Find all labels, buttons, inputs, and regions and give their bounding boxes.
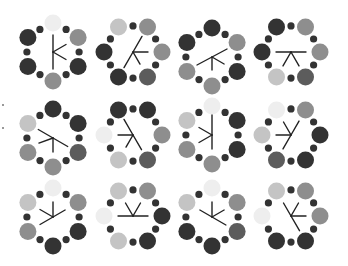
glyph-stroke xyxy=(53,210,65,217)
small-dot xyxy=(265,118,272,125)
big-dot xyxy=(204,78,221,95)
big-dot xyxy=(297,69,314,86)
small-dot xyxy=(222,236,229,243)
junction-glyph xyxy=(284,203,307,231)
big-dot xyxy=(139,101,156,118)
big-dot xyxy=(254,208,271,225)
big-dot xyxy=(268,18,285,35)
small-dot xyxy=(63,112,70,119)
ring-cell-r1-c0 xyxy=(19,101,86,176)
ring-cell-r0-c0 xyxy=(19,15,86,90)
small-dot xyxy=(23,134,30,141)
small-dot xyxy=(23,213,30,220)
small-dot xyxy=(222,191,229,198)
small-dot xyxy=(152,118,159,125)
junction-glyph xyxy=(276,121,299,149)
small-dot xyxy=(63,157,70,164)
ring-cell-r2-c1 xyxy=(96,182,171,249)
glyph-stroke xyxy=(53,52,66,60)
small-dot xyxy=(195,154,202,161)
small-dot xyxy=(36,112,43,119)
glyph-stroke xyxy=(53,138,68,147)
small-dot xyxy=(63,191,70,198)
small-dot xyxy=(195,109,202,116)
big-dot xyxy=(96,127,113,144)
small-dot xyxy=(222,109,229,116)
big-dot xyxy=(312,127,329,144)
small-dot xyxy=(107,145,114,152)
big-dot xyxy=(70,29,87,46)
edge-mark xyxy=(2,127,4,129)
glyph-stroke xyxy=(133,203,141,216)
glyph-stroke xyxy=(212,217,226,225)
big-dot xyxy=(139,69,156,86)
big-dot xyxy=(45,101,62,118)
small-dot xyxy=(235,131,242,138)
small-dot xyxy=(36,71,43,78)
big-dot xyxy=(154,44,171,61)
glyph-stroke xyxy=(212,57,224,64)
small-dot xyxy=(310,226,317,233)
big-dot xyxy=(110,101,127,118)
big-dot xyxy=(70,58,87,75)
big-dot xyxy=(297,152,314,169)
small-dot xyxy=(107,226,114,233)
small-dot xyxy=(63,236,70,243)
small-dot xyxy=(235,53,242,60)
big-dot xyxy=(110,152,127,169)
junction-glyph xyxy=(197,49,227,70)
small-dot xyxy=(182,213,189,220)
small-dot xyxy=(265,199,272,206)
ring-cell-r2-c0 xyxy=(19,180,86,255)
big-dot xyxy=(139,18,156,35)
ring-cell-r2-c2 xyxy=(178,180,245,255)
big-dot xyxy=(312,208,329,225)
big-dot xyxy=(110,18,127,35)
glyph-stroke xyxy=(284,203,292,216)
big-dot xyxy=(139,233,156,250)
big-dot xyxy=(70,194,87,211)
small-dot xyxy=(63,26,70,33)
big-dot xyxy=(178,112,195,129)
small-dot xyxy=(36,157,43,164)
glyph-stroke xyxy=(284,122,292,135)
small-dot xyxy=(152,226,159,233)
glyph-stroke xyxy=(283,135,291,149)
ring-cell-r0-c2 xyxy=(178,20,245,95)
big-dot xyxy=(154,127,171,144)
small-dot xyxy=(195,31,202,38)
small-dot xyxy=(287,105,294,112)
small-dot xyxy=(129,186,136,193)
junction-glyph xyxy=(38,130,67,153)
small-dot xyxy=(23,48,30,55)
ring-cell-r2-c3 xyxy=(254,182,329,249)
big-dot xyxy=(178,34,195,51)
junction-glyph xyxy=(124,36,148,67)
glyph-stroke xyxy=(126,135,133,147)
glyph-stroke xyxy=(200,210,212,217)
big-dot xyxy=(268,69,285,86)
big-dot xyxy=(268,152,285,169)
ring-cell-r1-c1 xyxy=(96,101,171,168)
edge-mark xyxy=(2,104,4,106)
ring-cell-r0-c3 xyxy=(254,18,329,85)
small-dot xyxy=(195,191,202,198)
stimulus-canvas xyxy=(0,0,348,266)
glyph-stroke xyxy=(124,119,133,135)
ring-cell-r1-c3 xyxy=(254,101,329,168)
big-dot xyxy=(178,141,195,158)
glyph-stroke xyxy=(126,203,134,216)
big-dot xyxy=(312,44,329,61)
small-dot xyxy=(287,186,294,193)
glyph-stroke xyxy=(38,130,53,139)
big-dot xyxy=(297,18,314,35)
big-dot xyxy=(268,233,285,250)
big-dot xyxy=(229,194,246,211)
small-dot xyxy=(287,75,294,82)
big-dot xyxy=(19,223,36,240)
small-dot xyxy=(107,199,114,206)
big-dot xyxy=(229,63,246,80)
small-dot xyxy=(310,118,317,125)
glyph-stroke xyxy=(40,210,53,218)
small-dot xyxy=(310,35,317,42)
